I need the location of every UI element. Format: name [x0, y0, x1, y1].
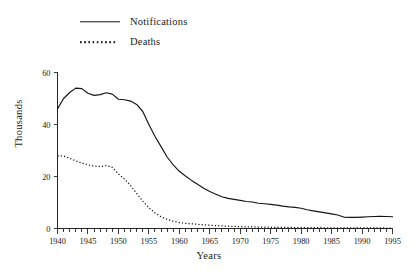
y-tick-label: 40	[42, 121, 50, 130]
x-tick-label: 1975	[262, 237, 279, 246]
x-tick-label: 1970	[232, 237, 249, 246]
x-tick-label: 1980	[293, 237, 310, 246]
x-tick-label: 1965	[201, 237, 218, 246]
axis-spines	[58, 73, 393, 229]
chart-figure: Notifications Deaths Thousands Years 020…	[0, 0, 418, 271]
plot-area: 0204060194019451950195519601965197019751…	[0, 0, 418, 271]
series-line-deaths	[58, 156, 393, 228]
x-tick-label: 1945	[80, 237, 97, 246]
x-tick-label: 1990	[354, 237, 371, 246]
series-line-notifications	[58, 88, 393, 217]
x-tick-label: 1950	[110, 237, 127, 246]
x-tick-label: 1940	[49, 237, 66, 246]
x-tick-label: 1995	[384, 237, 401, 246]
x-tick-label: 1985	[323, 237, 340, 246]
x-tick-label: 1955	[140, 237, 157, 246]
series-layer	[58, 88, 393, 228]
y-tick-label: 0	[46, 225, 50, 234]
y-tick-label: 60	[42, 69, 50, 78]
x-tick-label: 1960	[171, 237, 188, 246]
y-tick-label: 20	[42, 173, 50, 182]
